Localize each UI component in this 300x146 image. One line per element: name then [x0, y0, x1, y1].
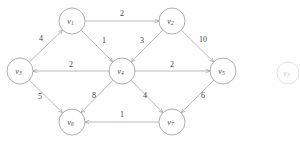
ghost-node-label: v3: [283, 69, 290, 79]
graph-edge-v4-v6: [81, 80, 113, 112]
graph-edge-v5-v7: [181, 80, 214, 113]
edge-weight-v5-v7: 6: [201, 91, 205, 100]
graph-edge-v4-v3: [33, 69, 109, 73]
graph-edge-v1-v4: [81, 30, 113, 62]
graph-edge-v2-v4: [131, 30, 163, 62]
edge-weight-v2-v4: 3: [140, 36, 144, 45]
edge-weight-v3-v1: 4: [39, 34, 43, 43]
graph-edge-v1-v2: [85, 19, 159, 23]
graph-edge-v4-v5: [135, 69, 210, 73]
graph-node-v2[interactable]: v2: [159, 8, 185, 34]
graph-node-v6[interactable]: v6: [59, 109, 85, 135]
graph-node-v1[interactable]: v1: [59, 8, 85, 34]
graph-edge-v3-v1: [29, 30, 62, 62]
edge-weight-v2-v5: 10: [199, 35, 207, 44]
graph-edge-v4-v7: [131, 80, 163, 112]
edge-weight-v4-v5: 2: [170, 60, 174, 69]
edge-weight-v4-v3: 2: [69, 60, 73, 69]
graph-node-v4[interactable]: v4: [109, 58, 135, 84]
graph-node-v3[interactable]: v3: [7, 58, 33, 84]
graph-edge-v3-v6: [29, 80, 62, 113]
graph-edge-v2-v5: [181, 30, 213, 62]
edge-weight-v1-v2: 2: [120, 9, 124, 18]
graph-node-v7[interactable]: v7: [159, 109, 185, 135]
graph-node-v5[interactable]: v5: [210, 58, 236, 84]
graph-figure: v1v2v3v4v5v6v7 2413102258461 v3: [0, 0, 300, 146]
edge-weight-v3-v6: 5: [38, 92, 42, 101]
graph-canvas: v1v2v3v4v5v6v7 2413102258461 v3: [0, 0, 300, 146]
ghost-node-layer: v3: [277, 62, 299, 84]
edge-weight-v4-v7: 4: [143, 91, 147, 100]
edge-weight-v4-v6: 8: [92, 91, 96, 100]
ghost-node-v3: v3: [277, 62, 299, 84]
graph-edge-v7-v6: [85, 120, 159, 124]
edge-weight-v7-v6: 1: [120, 110, 124, 119]
edge-weight-v1-v4: 1: [102, 36, 106, 45]
